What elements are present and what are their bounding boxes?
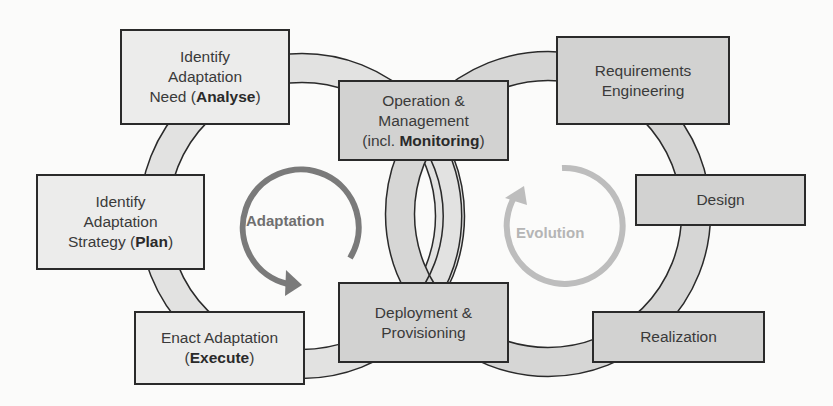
- realization-label: Realization: [640, 327, 717, 347]
- plan-keyword: Plan: [135, 233, 168, 250]
- adaptation-arrow-icon: [243, 169, 359, 296]
- operation-line2: Management: [362, 111, 484, 131]
- analyse-line1: Identify: [149, 47, 260, 67]
- requirements-line1: Requirements: [595, 61, 692, 81]
- plan-line3-suffix: ): [168, 233, 173, 250]
- deployment-line2: Provisioning: [375, 323, 472, 343]
- analyse-line3-suffix: ): [255, 88, 260, 105]
- requirements-line2: Engineering: [595, 81, 692, 101]
- plan-line3-prefix: Strategy (: [68, 233, 135, 250]
- deployment-line1: Deployment &: [375, 303, 472, 323]
- operation-line3-prefix: (incl.: [362, 132, 399, 149]
- analyse-keyword: Analyse: [196, 88, 255, 105]
- operation-keyword: Monitoring: [399, 132, 479, 149]
- execute-line2-suffix: ): [249, 349, 254, 366]
- deployment-box: Deployment & Provisioning: [338, 282, 509, 363]
- plan-box: Identify Adaptation Strategy (Plan): [36, 174, 205, 270]
- adaptation-cycle-label: Adaptation: [246, 212, 324, 229]
- execute-line1: Enact Adaptation: [161, 328, 278, 348]
- design-box: Design: [635, 174, 806, 226]
- plan-line1: Identify: [68, 192, 173, 212]
- requirements-box: Requirements Engineering: [556, 36, 730, 125]
- realization-box: Realization: [592, 311, 765, 363]
- analyse-line3-prefix: Need (: [149, 88, 196, 105]
- operation-line3-suffix: ): [479, 132, 484, 149]
- execute-box: Enact Adaptation (Execute): [134, 311, 305, 385]
- evolution-cycle-label: Evolution: [516, 224, 584, 241]
- plan-line2: Adaptation: [68, 212, 173, 232]
- design-label: Design: [696, 190, 744, 210]
- operation-line1: Operation &: [362, 91, 484, 111]
- analyse-line2: Adaptation: [149, 67, 260, 87]
- execute-keyword: Execute: [190, 349, 249, 366]
- analyse-box: Identify Adaptation Need (Analyse): [120, 29, 290, 125]
- operation-box: Operation & Management (incl. Monitoring…: [338, 80, 509, 161]
